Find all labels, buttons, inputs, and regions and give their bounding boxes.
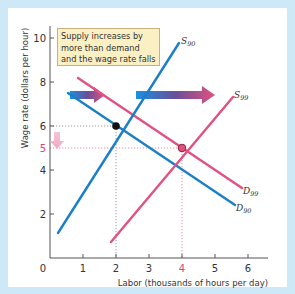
demand-shift-arrow-icon (70, 87, 105, 103)
y-tick-2: 2 (40, 209, 46, 220)
x-tick-4: 4 (179, 263, 185, 274)
label-d90: D90 (235, 203, 252, 215)
equilibrium-point-1999 (178, 144, 186, 152)
x-tick-3: 3 (146, 263, 152, 274)
annotation-line-3: and the wage rate falls (61, 54, 156, 66)
x-tick-2: 2 (113, 263, 119, 274)
wage-fall-arrow-icon (50, 132, 64, 149)
supply-shift-arrow-icon (136, 86, 215, 104)
label-s90: S90 (181, 36, 195, 48)
demand-curve-d90 (68, 93, 235, 205)
y-tick-4: 4 (40, 165, 46, 176)
x-tick-6: 6 (245, 263, 251, 274)
x-tick-5: 5 (212, 263, 218, 274)
x-tick-labels: 0 1 2 3 4 5 6 (40, 263, 251, 274)
label-s99: S99 (234, 90, 248, 102)
x-tick-1: 1 (80, 263, 86, 274)
x-axis-title: Labor (thousands of hours per day) (118, 278, 268, 288)
y-tick-5: 5 (40, 143, 46, 154)
y-tick-labels: 10 8 6 5 4 2 (33, 33, 46, 220)
equilibrium-point-1990 (112, 122, 120, 130)
annotation-line-2: more than demand (61, 43, 156, 55)
annotation-box: Supply increases by more than demand and… (57, 28, 160, 66)
y-tick-6: 6 (40, 121, 46, 132)
y-tick-10: 10 (33, 33, 46, 44)
curves (58, 43, 242, 242)
y-axis-title: Wage rate (dollars per hour) (20, 28, 30, 148)
supply-curve-s90 (58, 43, 179, 233)
guide-lines (50, 126, 182, 258)
label-d99: D99 (242, 186, 259, 198)
y-tick-8: 8 (40, 77, 46, 88)
x-tick-0: 0 (40, 263, 46, 274)
annotation-line-1: Supply increases by (61, 31, 156, 43)
